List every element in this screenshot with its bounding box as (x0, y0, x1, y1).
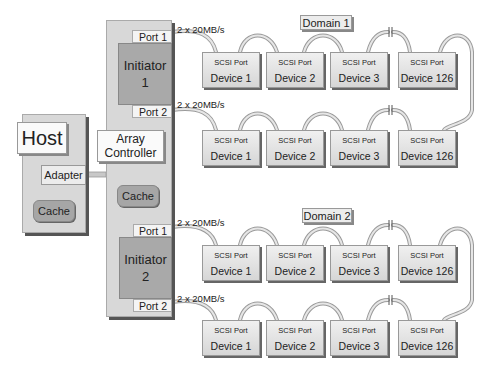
scsi-port-label: SCSI Port (267, 136, 323, 145)
speed-label-d2-r2: 2 x 20MB/s (177, 293, 225, 304)
device-d1-r1-1: SCSI PortDevice 1 (202, 52, 260, 88)
device-name: Device 2 (267, 150, 323, 162)
scsi-port-label: SCSI Port (203, 326, 259, 335)
array-controller-label: Array Controller (97, 130, 164, 162)
scsi-port-label: SCSI Port (399, 58, 455, 67)
device-d1-r1-2: SCSI PortDevice 2 (266, 52, 324, 88)
device-name: Device 1 (203, 72, 259, 84)
device-d2-r2-126: SCSI PortDevice 126 (398, 320, 456, 356)
device-d1-r2-126: SCSI PortDevice 126 (398, 130, 456, 166)
host-title: Host (17, 122, 67, 154)
device-name: Device 1 (203, 340, 259, 352)
array-controller-line2: Controller (104, 146, 156, 160)
scsi-port-label: SCSI Port (267, 326, 323, 335)
initiator-2-label: Initiator (124, 251, 167, 268)
initiator-1-label: Initiator (124, 57, 167, 74)
initiator-1-number: 1 (141, 74, 148, 91)
domain-2-label: Domain 2 (302, 208, 352, 223)
initiator-1-port-2: Port 2 (132, 105, 172, 118)
array-cache: Cache (117, 185, 159, 207)
device-d2-r2-3: SCSI PortDevice 3 (330, 320, 388, 356)
device-d1-r2-1: SCSI PortDevice 1 (202, 130, 260, 166)
scsi-port-label: SCSI Port (267, 58, 323, 67)
device-d2-r1-1: SCSI PortDevice 1 (202, 245, 260, 281)
device-name: Device 2 (267, 340, 323, 352)
initiator-2: Initiator 2 (119, 237, 172, 299)
device-d2-r2-2: SCSI PortDevice 2 (266, 320, 324, 356)
scsi-port-label: SCSI Port (399, 136, 455, 145)
device-d2-r2-1: SCSI PortDevice 1 (202, 320, 260, 356)
adapter-label: Adapter (41, 165, 86, 185)
device-name: Device 2 (267, 72, 323, 84)
initiator-2-port-2: Port 2 (133, 299, 172, 312)
device-name: Device 1 (203, 150, 259, 162)
host-cache: Cache (33, 200, 75, 222)
scsi-port-label: SCSI Port (331, 58, 387, 67)
speed-label-d1-r2: 2 x 20MB/s (177, 99, 225, 110)
device-name: Device 3 (331, 72, 387, 84)
initiator-1: Initiator 1 (118, 43, 172, 105)
device-d2-r1-3: SCSI PortDevice 3 (330, 245, 388, 281)
scsi-port-label: SCSI Port (399, 251, 455, 260)
scsi-port-label: SCSI Port (267, 251, 323, 260)
device-d1-r2-2: SCSI PortDevice 2 (266, 130, 324, 166)
speed-label-d2-r1: 2 x 20MB/s (177, 217, 225, 228)
device-d2-r1-2: SCSI PortDevice 2 (266, 245, 324, 281)
scsi-port-label: SCSI Port (399, 326, 455, 335)
scsi-port-label: SCSI Port (203, 136, 259, 145)
scsi-port-label: SCSI Port (331, 326, 387, 335)
device-name: Device 3 (331, 150, 387, 162)
speed-label-d1-r1: 2 x 20MB/s (177, 24, 225, 35)
scsi-port-label: SCSI Port (203, 58, 259, 67)
device-name: Device 2 (267, 265, 323, 277)
array-controller-line1: Array (116, 132, 145, 146)
device-d1-r1-3: SCSI PortDevice 3 (330, 52, 388, 88)
device-name: Device 3 (331, 340, 387, 352)
scsi-port-label: SCSI Port (203, 251, 259, 260)
device-d1-r1-126: SCSI PortDevice 126 (398, 52, 456, 88)
initiator-1-port-1: Port 1 (132, 30, 172, 43)
initiator-2-number: 2 (142, 268, 149, 285)
domain-1-label: Domain 1 (300, 15, 352, 30)
device-name: Device 126 (399, 72, 455, 84)
device-name: Device 126 (399, 340, 455, 352)
initiator-2-port-1: Port 1 (133, 224, 172, 237)
scsi-port-label: SCSI Port (331, 136, 387, 145)
scsi-port-label: SCSI Port (331, 251, 387, 260)
device-name: Device 3 (331, 265, 387, 277)
device-name: Device 1 (203, 265, 259, 277)
device-name: Device 126 (399, 150, 455, 162)
device-d2-r1-126: SCSI PortDevice 126 (398, 245, 456, 281)
device-d1-r2-3: SCSI PortDevice 3 (330, 130, 388, 166)
device-name: Device 126 (399, 265, 455, 277)
